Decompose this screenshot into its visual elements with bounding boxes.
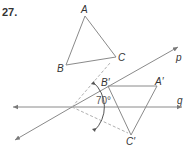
problem-number: 27. [2, 6, 17, 18]
triangle-A-prime-B-prime-C-prime [108, 86, 157, 135]
angle-arc-arrow-bottom [92, 128, 96, 132]
reflection-diagram: 27. A B C B′ A′ C′ p q 70° [0, 0, 188, 151]
label-A-prime: A′ [154, 76, 165, 87]
line-p-left [15, 107, 72, 140]
label-B: B [57, 63, 64, 74]
label-C: C [118, 52, 126, 63]
label-A: A [80, 4, 88, 15]
label-line-p: p [175, 52, 182, 63]
triangle-ABC [66, 16, 116, 65]
label-B-prime: B′ [101, 77, 111, 88]
label-C-prime: C′ [126, 136, 136, 147]
label-line-q: q [177, 95, 183, 106]
angle-arc-arrow-top [91, 81, 95, 85]
angle-label: 70° [96, 95, 111, 106]
